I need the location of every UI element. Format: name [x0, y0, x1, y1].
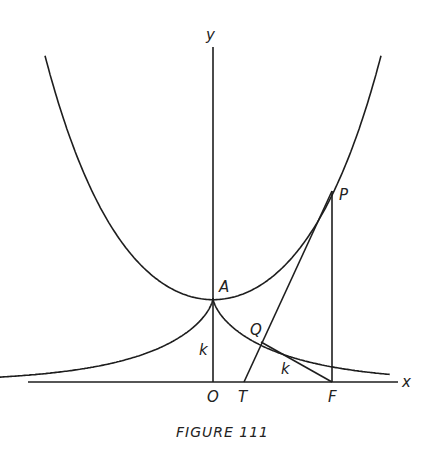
segment-oa-label: k	[199, 341, 209, 359]
point-q-label: Q	[250, 321, 262, 339]
point-f-label: F	[328, 388, 337, 406]
point-t-label: T	[238, 388, 249, 406]
figure-111: y x A P Q O T F k k FIGURE 111	[0, 0, 431, 455]
tractrix-right-curve	[213, 298, 390, 374]
point-o-label: O	[207, 388, 219, 406]
y-axis-label: y	[205, 26, 216, 44]
tractrix-left-curve	[0, 298, 213, 377]
figure-caption: FIGURE 111	[176, 424, 269, 440]
segment-qf-label: k	[281, 360, 291, 378]
x-axis-label: x	[401, 373, 411, 391]
segment-qf	[261, 342, 332, 382]
point-p-label: P	[339, 186, 349, 204]
point-a-label: A	[218, 278, 229, 296]
